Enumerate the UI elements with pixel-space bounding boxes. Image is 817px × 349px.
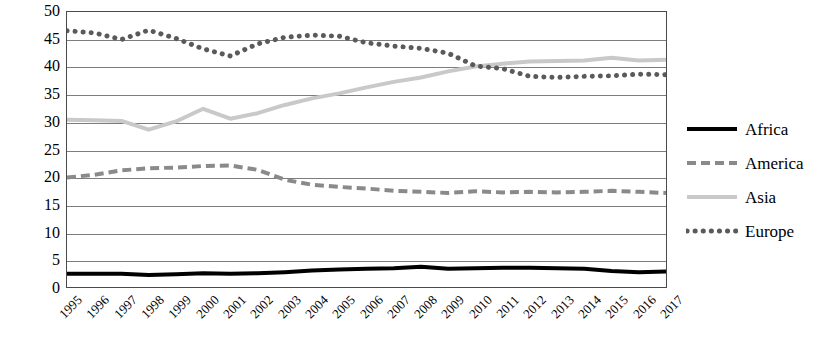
x-tick-label: 1996 [84, 293, 112, 321]
legend-key-europe-icon [686, 224, 738, 238]
x-tick-label: 2005 [330, 293, 358, 321]
legend-label: Europe [745, 223, 794, 240]
x-tick-label: 2000 [193, 293, 221, 321]
y-tick-label: 0 [52, 280, 60, 296]
legend-key-africa-icon [686, 122, 738, 136]
x-tick-label: 1999 [166, 293, 194, 321]
legend-label: Asia [745, 189, 776, 206]
legend-item-europe[interactable]: Europe [686, 214, 817, 248]
x-tick-label: 1995 [57, 293, 85, 321]
x-tick-label: 2015 [603, 293, 631, 321]
y-axis-tick-labels: 50454035302520151050 [22, 0, 60, 349]
legend-item-asia[interactable]: Asia [686, 180, 817, 214]
series-line-america [67, 165, 666, 193]
y-tick-label: 15 [44, 197, 60, 213]
x-tick-label: 2016 [630, 293, 658, 321]
x-tick-label: 1997 [111, 293, 139, 321]
legend-key-america-icon [686, 156, 738, 170]
series-line-asia [67, 58, 666, 130]
y-tick-label: 5 [52, 252, 60, 268]
y-tick-label: 10 [44, 225, 60, 241]
y-tick-label: 20 [44, 169, 60, 185]
y-tick-label: 50 [44, 3, 60, 19]
y-tick-label: 45 [44, 31, 60, 47]
chart-figure: Share of world exports 50454035302520151… [0, 0, 817, 349]
x-tick-label: 2014 [576, 293, 604, 321]
x-tick-label: 2004 [302, 293, 330, 321]
x-tick-label: 2017 [658, 293, 686, 321]
x-tick-label: 2009 [439, 293, 467, 321]
legend-key-asia-icon [686, 190, 738, 204]
x-tick-label: 2006 [357, 293, 385, 321]
x-tick-label: 2002 [248, 293, 276, 321]
x-tick-label: 2011 [494, 293, 521, 320]
x-tick-label: 2001 [221, 293, 249, 321]
y-tick-label: 25 [44, 142, 60, 158]
legend-label: America [745, 155, 804, 172]
y-tick-label: 40 [44, 58, 60, 74]
series-layer [67, 12, 666, 287]
x-tick-label: 1998 [139, 293, 167, 321]
plot-area [66, 11, 667, 288]
chart-legend: AfricaAmericaAsiaEurope [686, 112, 817, 248]
y-tick-label: 35 [44, 86, 60, 102]
x-axis-tick-labels: 1995199619971998199920002001200220032004… [66, 289, 667, 349]
legend-item-america[interactable]: America [686, 146, 817, 180]
x-tick-label: 2010 [466, 293, 494, 321]
series-line-europe [67, 30, 666, 77]
legend-label: Africa [745, 121, 788, 138]
x-tick-label: 2008 [412, 293, 440, 321]
y-tick-label: 30 [44, 114, 60, 130]
legend-item-africa[interactable]: Africa [686, 112, 817, 146]
x-tick-label: 2012 [521, 293, 549, 321]
x-tick-label: 2007 [384, 293, 412, 321]
series-line-africa [67, 267, 666, 275]
x-tick-label: 2003 [275, 293, 303, 321]
x-tick-label: 2013 [548, 293, 576, 321]
